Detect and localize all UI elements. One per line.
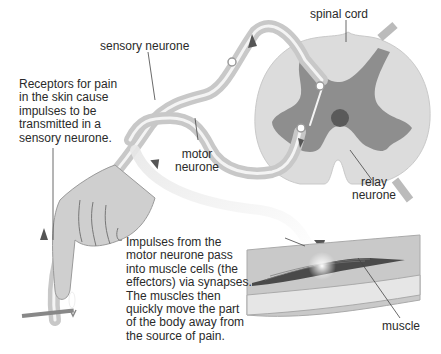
reflex-arc-diagram: spinal cord sensory neurone motor neuron… (0, 0, 441, 354)
spinal-cord-label: spinal cord (310, 8, 368, 22)
impulses-annotation: Impulses from the motor neurone pass int… (126, 236, 252, 343)
synapse-2 (297, 124, 305, 132)
relay-neurone-label: relay neurone (352, 176, 396, 203)
synapse-1 (316, 82, 324, 90)
arm (247, 235, 420, 316)
central-canal (331, 109, 349, 127)
arrow-up-finger (40, 228, 48, 240)
synapse-glow (308, 252, 336, 280)
sensory-neurone-label: sensory neurone (100, 40, 189, 54)
sensory-cell-body (228, 58, 236, 66)
muscle-label: muscle (382, 320, 420, 334)
receptors-annotation: Receptors for pain in the skin cause imp… (19, 78, 117, 145)
motor-neurone-label: motor neurone (175, 148, 219, 175)
